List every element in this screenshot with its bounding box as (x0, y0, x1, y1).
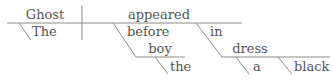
object-1-modifier-word: the (170, 59, 192, 74)
object-1-word: boy (148, 41, 172, 56)
verb-word: appeared (128, 7, 190, 22)
object-2-word: dress (232, 41, 268, 56)
subject-modifier-slant (19, 23, 31, 40)
object-2-modifier-2-word: black (294, 59, 330, 74)
object-1-modifier-slant (155, 57, 168, 74)
object-2-modifier-1-word: a (253, 59, 261, 74)
preposition-1-word: before (127, 24, 170, 39)
preposition-2-word: in (210, 24, 223, 39)
object-2-modifier-2-slant (278, 57, 292, 74)
subject-modifier-word: The (32, 24, 57, 39)
sentence-diagram: Ghost The appeared before boy the in dre… (0, 0, 333, 81)
object-2-modifier-1-slant (236, 57, 249, 74)
subject-word: Ghost (26, 7, 65, 22)
